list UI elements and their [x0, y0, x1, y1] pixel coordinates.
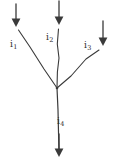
current-label-i4-subscript: 4: [60, 120, 64, 128]
branch-line-i3: [57, 50, 99, 88]
current-arrow-i3: [99, 21, 108, 46]
current-label-i1-subscript: 1: [13, 43, 17, 51]
figure-canvas: i1 i2 i3 i4: [0, 0, 113, 164]
current-label-i2: i2: [46, 33, 53, 43]
junction-node: [56, 87, 59, 90]
current-label-i3-subscript: 3: [87, 44, 91, 52]
junction-diagram-svg: [0, 0, 113, 164]
current-label-i1: i1: [10, 40, 17, 50]
current-label-i3: i3: [84, 41, 91, 51]
branch-line-i2: [57, 29, 59, 88]
current-arrow-i4: [55, 134, 64, 157]
current-arrow-i2: [55, 1, 64, 25]
current-label-i2-subscript: 2: [49, 36, 53, 44]
current-arrow-i1: [12, 4, 21, 27]
current-label-i4: i4: [57, 117, 64, 127]
